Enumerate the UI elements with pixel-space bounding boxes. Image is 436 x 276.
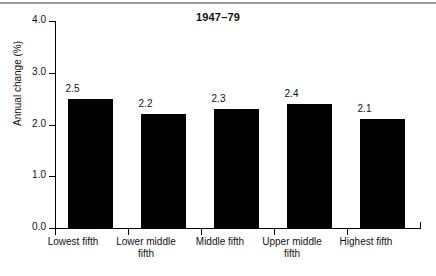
x-tick-mark — [128, 229, 129, 235]
x-category-label: Lower middle fifth — [112, 236, 180, 260]
y-tick-label: 1.0 — [2, 169, 46, 180]
bar — [68, 99, 113, 228]
bar — [141, 114, 186, 228]
plot-area — [55, 21, 420, 228]
x-tick-mark — [201, 229, 202, 235]
y-axis-title: Annual change (%) — [12, 14, 23, 154]
x-axis-line — [55, 228, 421, 229]
x-category-label: Highest fifth — [333, 236, 399, 248]
x-tick-mark — [55, 229, 56, 235]
x-category-label: Upper middle fifth — [258, 236, 326, 260]
x-axis-end-cap — [420, 222, 421, 229]
bar — [360, 119, 405, 228]
y-tick-label: 4.0 — [2, 14, 46, 25]
bar-value-label: 2.2 — [123, 98, 168, 109]
bar-value-label: 2.3 — [196, 93, 241, 104]
y-tick-label: 2.0 — [2, 118, 46, 129]
bar-value-label: 2.1 — [342, 103, 387, 114]
bar — [287, 104, 332, 228]
bar-value-label: 2.5 — [50, 83, 95, 94]
y-tick-label: 0.0 — [2, 221, 46, 232]
bar-chart-figure: 1947–79 Annual change (%) 0.0 1.0 2.0 3.… — [0, 0, 436, 276]
bar — [214, 109, 259, 228]
x-category-label: Lowest fifth — [40, 236, 106, 248]
x-category-label: Middle fifth — [187, 236, 253, 248]
y-tick-label: 3.0 — [2, 66, 46, 77]
x-tick-mark — [347, 229, 348, 235]
x-tick-mark — [274, 229, 275, 235]
bar-value-label: 2.4 — [269, 88, 314, 99]
top-rule-divider — [0, 2, 436, 4]
